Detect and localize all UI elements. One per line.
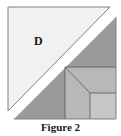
figure-caption: Figure 2 — [0, 120, 121, 134]
figure-2-diagram: D — [0, 0, 121, 120]
geometric-figure — [0, 0, 121, 120]
label-d: D — [34, 34, 43, 49]
light-gray-square — [90, 93, 116, 119]
